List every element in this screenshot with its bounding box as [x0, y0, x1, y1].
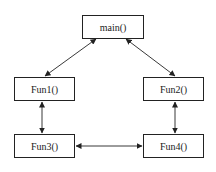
node-main-label: main()	[100, 22, 127, 33]
node-fun2: Fun2()	[143, 77, 204, 101]
node-fun2-label: Fun2()	[160, 84, 187, 95]
node-fun4-label: Fun4()	[160, 141, 187, 152]
edge-main-fun1	[45, 39, 96, 76]
node-fun1: Fun1()	[14, 77, 75, 101]
node-main: main()	[82, 15, 144, 39]
node-fun3-label: Fun3()	[31, 141, 58, 152]
node-fun3: Fun3()	[14, 134, 75, 158]
node-fun4: Fun4()	[143, 134, 204, 158]
edge-main-fun2	[126, 39, 175, 76]
node-fun1-label: Fun1()	[31, 84, 58, 95]
